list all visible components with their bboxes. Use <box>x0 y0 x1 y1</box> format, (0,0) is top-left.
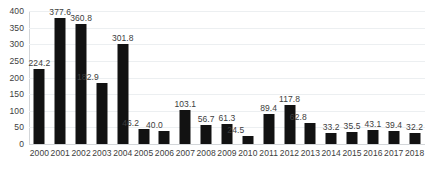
bar-item: 117.8 <box>279 11 300 144</box>
bar-item: 35.5 <box>342 11 363 144</box>
bar <box>180 110 191 144</box>
bar-value-label: 377.6 <box>49 7 71 17</box>
bar-chart: 050100150200250300350400 224.2377.6360.8… <box>0 0 429 178</box>
y-axis-tick-label: 400 <box>10 6 29 16</box>
bar-value-label: 39.4 <box>385 120 402 130</box>
bar <box>34 69 45 144</box>
y-axis-tick-label: 150 <box>10 89 29 99</box>
x-axis-tick-label: 2013 <box>301 148 320 158</box>
x-axis-tick-label: 2002 <box>71 148 90 158</box>
bar-item: 56.7 <box>196 11 217 144</box>
y-axis-tick-label: 350 <box>10 23 29 33</box>
bar-item: 39.4 <box>383 11 404 144</box>
x-axis-tick-label: 2005 <box>134 148 153 158</box>
x-axis-tick-label: 2012 <box>280 148 299 158</box>
bar-value-label: 33.2 <box>323 122 340 132</box>
bar-value-label: 24.5 <box>227 125 244 135</box>
bar-item: 103.1 <box>175 11 196 144</box>
bar-value-label: 43.1 <box>364 119 381 129</box>
x-axis-tick-label: 2006 <box>155 148 174 158</box>
x-axis-tick-label: 2007 <box>176 148 195 158</box>
bar <box>367 130 378 144</box>
bar <box>263 114 274 144</box>
y-axis-tick-label: 200 <box>10 73 29 83</box>
x-axis-tick-label: 2010 <box>238 148 257 158</box>
bar <box>117 44 128 144</box>
bar-item: 40.0 <box>154 11 175 144</box>
y-axis-tick-label: 300 <box>10 39 29 49</box>
bar-value-label: 32.2 <box>406 122 423 132</box>
bar <box>201 125 212 144</box>
x-axis-tick-label: 2000 <box>30 148 49 158</box>
x-axis-tick-label: 2004 <box>113 148 132 158</box>
x-axis-tick-label: 2011 <box>259 148 278 158</box>
bar-value-label: 62.8 <box>290 112 307 122</box>
x-axis-tick-label: 2009 <box>217 148 236 158</box>
bar-value-label: 46.2 <box>122 118 139 128</box>
bar-item: 224.2 <box>29 11 50 144</box>
bar <box>388 131 399 144</box>
bar-item: 24.5 <box>237 11 258 144</box>
plot-area: 050100150200250300350400 224.2377.6360.8… <box>29 11 425 144</box>
bar-value-label: 89.4 <box>260 103 277 113</box>
bar-item: 62.8 <box>300 11 321 144</box>
x-axis-tick-label: 2008 <box>197 148 216 158</box>
bar <box>159 131 170 144</box>
bar-value-label: 56.7 <box>198 114 215 124</box>
bar-value-label: 35.5 <box>344 121 361 131</box>
bar-value-label: 360.8 <box>70 13 92 23</box>
x-axis-tick-label: 2015 <box>342 148 361 158</box>
y-axis-tick-label: 0 <box>19 139 29 149</box>
bar-value-label: 103.1 <box>174 99 196 109</box>
x-axis-tick-label: 2001 <box>51 148 70 158</box>
bar-item: 377.6 <box>50 11 71 144</box>
bar-item: 89.4 <box>258 11 279 144</box>
bar-item: 33.2 <box>321 11 342 144</box>
bar <box>409 133 420 144</box>
bar-value-label: 224.2 <box>29 58 51 68</box>
bar-item: 32.2 <box>404 11 425 144</box>
y-axis-tick-label: 250 <box>10 56 29 66</box>
x-axis-tick-label: 2014 <box>322 148 341 158</box>
bar-value-label: 40.0 <box>146 120 163 130</box>
bar <box>284 105 295 144</box>
x-axis-tick-label: 2016 <box>363 148 382 158</box>
x-axis-tick-label: 2017 <box>384 148 403 158</box>
x-axis-tick-label: 2018 <box>405 148 424 158</box>
y-axis-tick-label: 50 <box>14 122 29 132</box>
bar <box>326 133 337 144</box>
bar-item: 182.9 <box>92 11 113 144</box>
bar <box>138 129 149 144</box>
bar-value-label: 301.8 <box>112 33 134 43</box>
bar-value-label: 182.9 <box>77 72 99 82</box>
y-axis-tick-label: 100 <box>10 106 29 116</box>
bar <box>347 132 358 144</box>
x-axis-tick-label: 2003 <box>92 148 111 158</box>
bar <box>305 123 316 144</box>
gridline <box>29 144 425 145</box>
bar <box>96 83 107 144</box>
bar <box>55 18 66 144</box>
bar <box>76 24 87 144</box>
bar-value-label: 61.3 <box>219 113 236 123</box>
bar-item: 43.1 <box>362 11 383 144</box>
x-axis-tick-labels: 2000200120022003200420052006200720082009… <box>29 148 425 168</box>
bar-value-label: 117.8 <box>279 94 300 104</box>
bar <box>242 136 253 144</box>
